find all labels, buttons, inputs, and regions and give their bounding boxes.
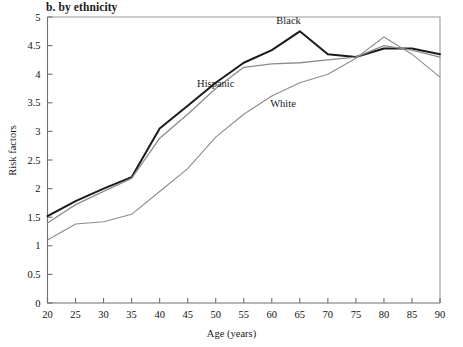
x-axis-ticks: 202530354045505560657075808590 [42,298,445,320]
x-tick-label: 40 [154,309,165,320]
y-tick-label: 1 [35,240,40,251]
y-tick-label: 2 [35,183,40,194]
series-line-hispanic [48,46,441,223]
x-tick-label: 70 [323,309,334,320]
x-tick-label: 75 [351,309,362,320]
x-tick-label: 25 [70,309,81,320]
x-tick-label: 30 [98,309,109,320]
y-tick-label: 3 [35,126,40,137]
x-tick-label: 65 [295,309,306,320]
axes-frame [48,17,441,303]
series-label-hispanic: Hispanic [197,78,235,89]
x-tick-label: 55 [239,309,250,320]
chart-figure: b. by ethnicity Risk factors Age (years)… [0,0,463,347]
series-label-black: Black [276,15,301,26]
x-tick-label: 80 [379,309,390,320]
x-tick-label: 45 [182,309,193,320]
x-tick-label: 20 [42,309,53,320]
x-tick-label: 60 [267,309,278,320]
y-tick-label: 4 [35,69,41,80]
x-tick-label: 35 [126,309,137,320]
series-annotations: BlackHispanicWhite [197,15,302,110]
series-label-white: White [270,98,296,109]
y-tick-label: 3.5 [27,97,40,108]
x-tick-label: 50 [210,309,221,320]
series-line-black [48,31,441,216]
y-tick-label: 4.5 [27,40,40,51]
data-series-group [48,31,441,240]
x-tick-label: 90 [435,309,446,320]
y-tick-label: 1.5 [27,212,40,223]
y-tick-label: 0.5 [27,269,40,280]
plot-area: 00.511.522.533.544.55 202530354045505560… [0,0,463,347]
x-tick-label: 85 [407,309,418,320]
y-tick-label: 5 [35,12,40,23]
y-axis-ticks: 00.511.522.533.544.55 [27,12,52,309]
y-tick-label: 2.5 [27,155,40,166]
y-tick-label: 0 [35,298,40,309]
